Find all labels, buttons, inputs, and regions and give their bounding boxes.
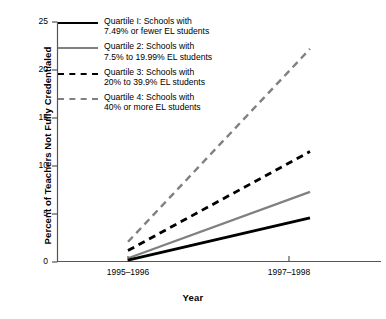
legend-label-quartile-2: Quartile 2: Schools with 7.5% to 19.99% … <box>104 41 212 61</box>
legend-item-quartile-1: Quartile I: Schools with 7.49% or fewer … <box>58 16 308 36</box>
dashed-black-line-icon <box>58 67 98 81</box>
chart-figure: 25 20 15 10 5 0 1995–1996 1997–1998 Perc… <box>0 0 386 319</box>
legend-item-quartile-2: Quartile 2: Schools with 7.5% to 19.99% … <box>58 41 308 61</box>
x-axis-title: Year <box>0 292 386 303</box>
solid-black-line-icon <box>58 16 98 30</box>
y-axis-ticks <box>52 22 58 262</box>
solid-gray-line-icon <box>58 41 98 55</box>
chart-legend: Quartile I: Schools with 7.49% or fewer … <box>58 16 308 118</box>
legend-label-quartile-1: Quartile I: Schools with 7.49% or fewer … <box>104 16 209 36</box>
legend-item-quartile-4: Quartile 4: Schools with 40% or more EL … <box>58 92 308 112</box>
legend-label-quartile-4: Quartile 4: Schools with 40% or more EL … <box>104 92 201 112</box>
dashed-gray-line-icon <box>58 92 98 106</box>
legend-label-quartile-3: Quartile 3: Schools with 20% to 39.9% EL… <box>104 67 205 87</box>
x-tick-label-1997-1998: 1997–1998 <box>244 268 334 277</box>
x-tick-label-1995-1996: 1995–1996 <box>83 268 173 277</box>
legend-item-quartile-3: Quartile 3: Schools with 20% to 39.9% EL… <box>58 67 308 87</box>
y-axis-title: Percent of Teachers Not Fully Credential… <box>42 21 53 271</box>
